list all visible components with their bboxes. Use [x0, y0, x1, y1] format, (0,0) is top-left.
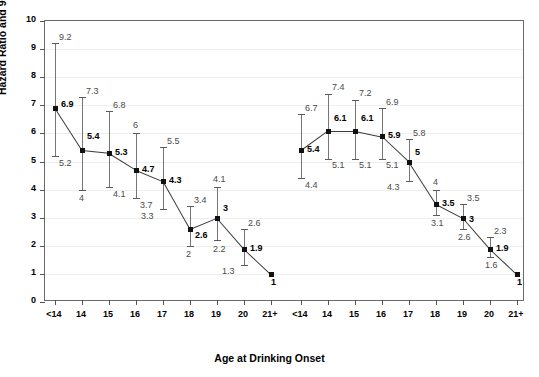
point-value-label: 5.4	[87, 131, 100, 141]
ci-cap-lower	[52, 156, 59, 157]
point-value-label: 5	[415, 147, 420, 157]
ci-cap-upper	[352, 100, 359, 101]
x-tick-label: 15	[341, 309, 367, 319]
ci-whisker	[109, 111, 110, 187]
x-tick-label: 17	[149, 309, 175, 319]
data-point-marker	[53, 106, 58, 111]
x-tick-label: <14	[41, 309, 67, 319]
y-tick-label: 10	[20, 14, 36, 24]
point-value-label: 4.3	[169, 175, 182, 185]
ci-cap-lower	[241, 265, 248, 266]
ci-upper-label: 3.4	[194, 195, 207, 205]
ci-lower-label: 5.1	[359, 160, 372, 170]
x-tick-label: 19	[203, 309, 229, 319]
point-value-label: 1.9	[250, 243, 263, 253]
plot-area: 6.99.25.25.47.345.36.84.14.763.74.35.53.…	[44, 20, 524, 301]
gridline	[45, 246, 523, 247]
y-tick-label: 0	[20, 295, 36, 305]
ci-lower-label: 4.1	[113, 189, 126, 199]
x-tick-label: 21+	[503, 309, 529, 319]
ci-upper-label: 2.3	[494, 226, 507, 236]
ci-whisker	[301, 114, 302, 179]
ci-whisker	[55, 43, 56, 155]
point-value-label: 4.7	[142, 164, 155, 174]
ci-cap-lower	[352, 159, 359, 160]
y-tick	[40, 21, 45, 22]
ci-cap-upper	[433, 190, 440, 191]
x-tick	[136, 300, 137, 305]
ci-cap-lower	[187, 246, 194, 247]
data-point-marker	[134, 168, 139, 173]
data-point-marker	[488, 247, 493, 252]
point-value-label: 6.1	[334, 113, 347, 123]
y-tick-label: 6	[20, 126, 36, 136]
point-value-label: 2.6	[195, 230, 208, 240]
ci-whisker	[217, 187, 218, 240]
ci-cap-upper	[52, 43, 59, 44]
ci-cap-lower	[133, 198, 140, 199]
point-value-label: 1	[271, 277, 276, 287]
ci-lower-label: 2.6	[458, 232, 471, 242]
data-point-marker	[434, 202, 439, 207]
ci-upper-label: 4	[433, 177, 438, 187]
y-tick-label: 4	[20, 183, 36, 193]
ci-cap-upper	[160, 147, 167, 148]
y-tick	[40, 162, 45, 163]
y-tick-label: 1	[20, 267, 36, 277]
series-segment	[190, 218, 217, 230]
y-tick-label: 9	[20, 42, 36, 52]
ci-lower-label: 2.2	[213, 244, 226, 254]
y-tick	[40, 218, 45, 219]
ci-lower-label: 3.7	[140, 200, 153, 210]
gridline	[45, 49, 523, 50]
x-tick	[55, 300, 56, 305]
point-value-label: 3.5	[442, 198, 455, 208]
data-point-marker	[80, 148, 85, 153]
y-tick	[40, 274, 45, 275]
ci-cap-upper	[79, 97, 86, 98]
hazard-ratio-chart: 6.99.25.25.47.345.36.84.14.763.74.35.53.…	[0, 0, 539, 377]
y-axis-title: Hazard Ratio and 95% CI	[0, 0, 8, 95]
x-tick	[301, 300, 302, 305]
x-tick-label: 20	[476, 309, 502, 319]
data-point-marker	[188, 227, 193, 232]
point-value-label: 6.1	[361, 113, 374, 123]
ci-upper-label: 6.8	[113, 100, 126, 110]
ci-cap-lower	[106, 187, 113, 188]
ci-cap-upper	[241, 229, 248, 230]
ci-lower-label: 3.3	[141, 211, 154, 221]
ci-lower-label: 3.1	[431, 218, 444, 228]
x-tick-label: 18	[422, 309, 448, 319]
data-point-marker	[326, 129, 331, 134]
x-tick	[490, 300, 491, 305]
data-point-marker	[407, 160, 412, 165]
ci-lower-label: 4.3	[387, 182, 400, 192]
y-tick-label: 2	[20, 239, 36, 249]
x-tick-label: 18	[176, 309, 202, 319]
point-value-label: 1	[517, 277, 522, 287]
y-tick	[40, 105, 45, 106]
ci-lower-label: 4	[79, 193, 84, 203]
ci-cap-lower	[460, 229, 467, 230]
ci-upper-label: 7.4	[332, 82, 345, 92]
x-tick	[163, 300, 164, 305]
x-tick	[82, 300, 83, 305]
ci-upper-label: 2.6	[248, 218, 261, 228]
series-segment	[55, 108, 83, 151]
ci-upper-label: 6	[133, 120, 138, 130]
point-value-label: 6.9	[61, 99, 74, 109]
ci-lower-label: 2	[186, 249, 191, 259]
x-tick	[382, 300, 383, 305]
x-tick	[244, 300, 245, 305]
series-segment	[244, 249, 272, 275]
data-point-marker	[461, 216, 466, 221]
x-tick-label: 14	[68, 309, 94, 319]
x-tick	[109, 300, 110, 305]
x-tick	[328, 300, 329, 305]
data-point-marker	[215, 216, 220, 221]
ci-lower-label: 5.1	[332, 160, 345, 170]
ci-whisker	[136, 133, 137, 198]
ci-upper-label: 7.2	[359, 88, 372, 98]
ci-upper-label: 6.7	[305, 103, 318, 113]
x-tick	[355, 300, 356, 305]
